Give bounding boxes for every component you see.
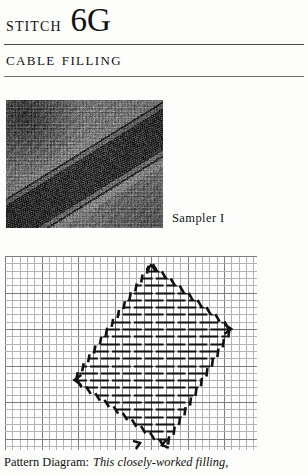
pattern-diagram bbox=[5, 256, 257, 450]
caption-body: This closely-worked filling, bbox=[93, 455, 228, 469]
header-rule-top bbox=[4, 44, 304, 45]
header-rule-bottom bbox=[4, 76, 304, 77]
stitch-label: Stitch bbox=[6, 13, 62, 36]
stitch-title-line: Stitch 6G bbox=[6, 4, 111, 37]
pattern-diagram-caption: Pattern Diagram:This closely-worked fill… bbox=[4, 455, 304, 470]
pattern-diagram-canvas bbox=[5, 256, 257, 450]
page-root: Stitch 6G Cable Filling Sampler I Patter… bbox=[0, 0, 308, 475]
caption-lead: Pattern Diagram: bbox=[4, 455, 89, 469]
stitch-code: 6G bbox=[71, 4, 111, 37]
sampler-photo-caption: Sampler I bbox=[172, 211, 225, 226]
sampler-photograph bbox=[6, 100, 163, 228]
sampler-photograph-canvas bbox=[6, 100, 163, 228]
stitch-subtitle: Cable Filling bbox=[6, 48, 122, 70]
